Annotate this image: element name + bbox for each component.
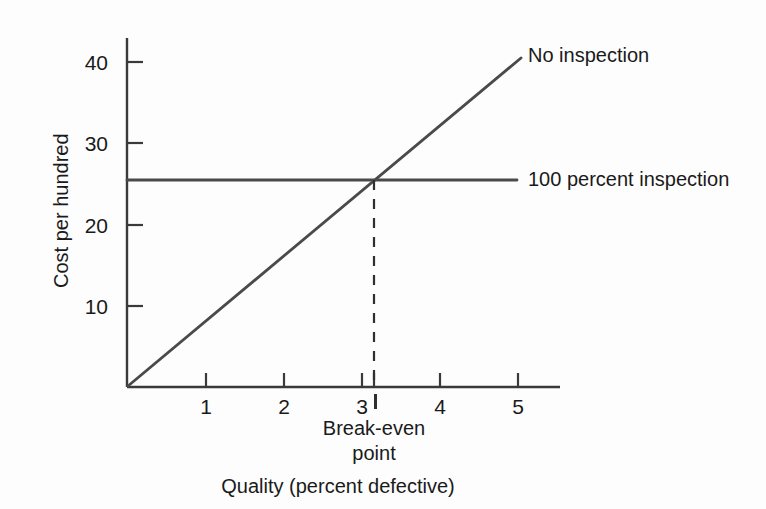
y-tick-label-40: 40 [72,51,108,75]
y-tick-label-10: 10 [72,295,108,319]
x-tick-label-2: 2 [264,395,304,419]
x-tick-label-4: 4 [420,395,460,419]
x-axis-title: Quality (percent defective) [188,475,488,498]
series-label-100-percent-inspection: 100 percent inspection [528,168,729,191]
y-tick-label-30: 30 [72,132,108,156]
series-label-no-inspection: No inspection [528,44,649,67]
x-tick-label-1: 1 [186,395,226,419]
y-tick-label-20: 20 [72,214,108,238]
series-line-no-inspection [128,58,521,386]
y-axis-title: Cost per hundred [50,133,73,288]
x-tick-label-5: 5 [498,395,538,419]
breakeven-tick-mark [374,394,377,409]
breakeven-annotation-line2: point [294,442,454,465]
chart-figure: 40 30 20 10 1 2 3 4 5 No inspection 100 … [0,0,766,509]
breakeven-annotation-line1: Break-even [294,417,454,440]
